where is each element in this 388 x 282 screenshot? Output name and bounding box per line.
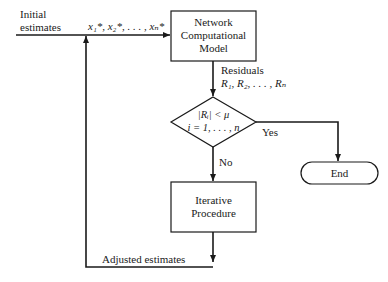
residuals-variables: R₁, R₂, . . . , Rₙ: [221, 77, 286, 89]
initial-label-line2: estimates: [20, 21, 61, 33]
adjusted-estimates-label: Adjusted estimates: [102, 253, 185, 265]
end-label: End: [301, 167, 378, 180]
initial-label-line1: Initial: [20, 8, 46, 20]
yes-label: Yes: [262, 126, 278, 138]
no-label: No: [219, 156, 232, 168]
decision-label: |Rᵢ| < μ i = 1, . . . , n: [171, 108, 256, 134]
model-box-label: Network Computational Model: [171, 16, 256, 55]
initial-variables: x₁*, x₂*, . . . , xₙ*: [88, 20, 164, 32]
iterative-box-label: Iterative Procedure: [171, 194, 256, 220]
residuals-label: Residuals: [221, 64, 264, 76]
